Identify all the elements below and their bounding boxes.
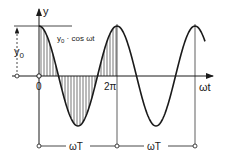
period-label-1: ωT <box>69 141 83 152</box>
dimension-marker-4pi <box>193 144 197 148</box>
origin-label: 0 <box>36 81 42 92</box>
y-axis-label: y <box>43 5 49 17</box>
dimension-marker-0 <box>37 144 41 148</box>
amplitude-label: y0 <box>14 45 25 60</box>
cosine-diagram: y ωt y0 y0 · cos ωt 0 2π ωT ωT <box>0 0 225 161</box>
curve-label: y0 · cos ωt <box>57 34 95 44</box>
two-pi-label: 2π <box>104 81 117 92</box>
period-label-2: ωT <box>147 141 161 152</box>
x-axis-label: ωt <box>199 81 211 93</box>
origin-marker <box>37 74 41 78</box>
dimension-marker-2pi <box>115 144 119 148</box>
amplitude-origin-marker <box>15 74 19 78</box>
